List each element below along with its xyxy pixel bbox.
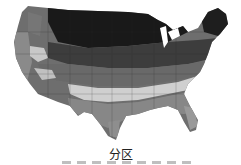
legend-swatch [77,161,86,164]
map-graphic [8,2,234,142]
legend-swatch [92,161,101,164]
legend-swatch [62,161,71,164]
legend-swatch [137,161,146,164]
map-title: 分区 [0,145,241,162]
legend-swatch [182,161,191,164]
zone-legend [62,161,191,164]
legend-swatch [122,161,131,164]
legend-swatch [107,161,116,164]
legend-swatch [152,161,161,164]
legend-swatch [167,161,176,164]
us-zone-map [8,2,234,142]
